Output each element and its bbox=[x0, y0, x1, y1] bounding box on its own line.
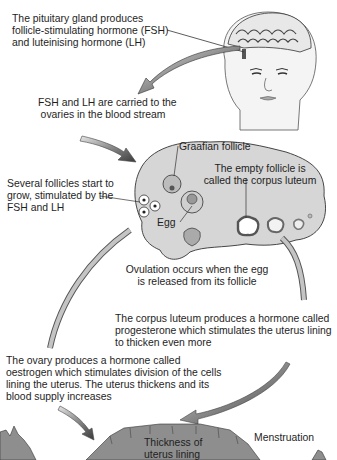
corpus-luteum-icon bbox=[238, 217, 258, 235]
progesterone-label: The corpus luteum produces a hormone cal… bbox=[115, 313, 332, 349]
oestrogen-label: The ovary produces a hormone called oest… bbox=[6, 355, 221, 403]
arrow-blood-to-ovary bbox=[80, 136, 136, 162]
corpus-luteum-label: The empty follicle is called the corpus … bbox=[200, 163, 320, 187]
head-illustration bbox=[224, 12, 316, 130]
graafian-follicle-label: Graafian follicle bbox=[179, 141, 251, 153]
arrow-oestrogen-to-uterus bbox=[58, 406, 94, 440]
menstruation-label: Menstruation bbox=[254, 432, 314, 444]
ovulation-label: Ovulation occurs when the egg is release… bbox=[118, 264, 276, 288]
egg-label: Egg bbox=[157, 217, 176, 229]
thickness-label: Thickness of uterus lining bbox=[144, 437, 202, 460]
follicles-grow-label: Several follicles start to grow, stimula… bbox=[7, 178, 114, 214]
pituitary-label: The pituitary gland produces follicle-st… bbox=[12, 13, 168, 49]
pituitary-gland-icon bbox=[242, 49, 246, 59]
blood-stream-label: FSH and LH are carried to the ovaries in… bbox=[38, 97, 168, 121]
